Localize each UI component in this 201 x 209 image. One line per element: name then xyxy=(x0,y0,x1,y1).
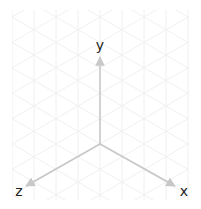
axis-label-x: x xyxy=(180,183,188,199)
axis-label-z: z xyxy=(15,183,22,199)
isometric-diagram: x y z xyxy=(0,0,201,209)
axis-label-y: y xyxy=(96,37,104,53)
axis-z-arrow xyxy=(26,144,100,186)
axis-x-arrow xyxy=(100,144,175,186)
